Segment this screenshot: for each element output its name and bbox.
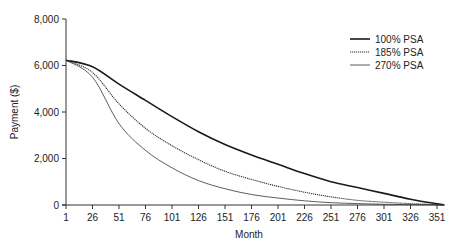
y-tick-label: 2,000	[34, 153, 59, 164]
x-tick-label: 151	[217, 212, 234, 223]
x-tick-label: 276	[349, 212, 366, 223]
x-tick-label: 101	[164, 212, 181, 223]
x-tick-label: 326	[402, 212, 419, 223]
x-tick-label: 26	[87, 212, 99, 223]
x-tick-label: 251	[323, 212, 340, 223]
y-tick-label: 4,000	[34, 107, 59, 118]
x-tick-label: 126	[190, 212, 207, 223]
x-tick-label: 1	[63, 212, 69, 223]
x-tick-label: 201	[270, 212, 287, 223]
x-axis-label: Month	[235, 229, 263, 240]
y-tick-label: 8,000	[34, 14, 59, 25]
series-line-270psa	[66, 60, 444, 205]
x-tick-label: 51	[113, 212, 125, 223]
legend-label: 100% PSA	[375, 34, 424, 45]
legend: 100% PSA185% PSA270% PSA	[350, 34, 424, 71]
legend-label: 185% PSA	[375, 47, 424, 58]
x-tick-label: 226	[296, 212, 313, 223]
x-tick-label: 301	[376, 212, 393, 223]
plot-lines	[66, 60, 444, 205]
x-tick-label: 176	[243, 212, 260, 223]
payment-chart: 02,0004,0006,0008,0001265176101126151176…	[0, 0, 454, 251]
x-tick-label: 351	[429, 212, 446, 223]
y-axis-label: Payment ($)	[9, 85, 20, 139]
series-line-100psa	[66, 60, 444, 205]
y-tick-label: 0	[53, 200, 59, 211]
series-line-185psa	[66, 60, 444, 205]
y-tick-label: 6,000	[34, 60, 59, 71]
legend-label: 270% PSA	[375, 60, 424, 71]
axes: 02,0004,0006,0008,0001265176101126151176…	[34, 14, 446, 224]
x-tick-label: 76	[140, 212, 152, 223]
